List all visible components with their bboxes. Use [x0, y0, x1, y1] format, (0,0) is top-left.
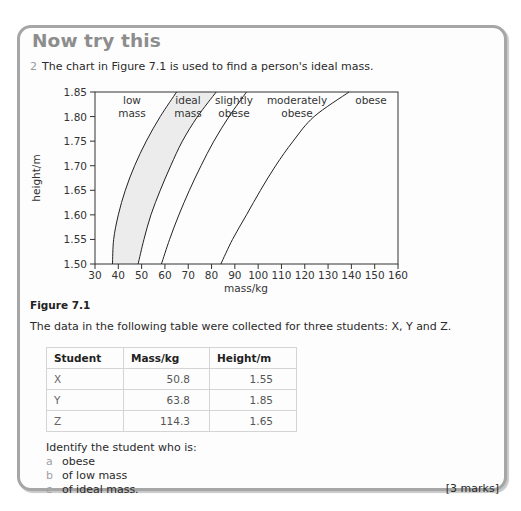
svg-text:ideal: ideal — [175, 94, 200, 106]
svg-text:100: 100 — [248, 269, 268, 281]
col-header-student: Student — [47, 348, 124, 369]
svg-text:1.55: 1.55 — [64, 233, 87, 245]
part-text: of low mass — [62, 469, 127, 482]
part-a: aobese — [46, 455, 197, 469]
svg-text:1.85: 1.85 — [64, 86, 87, 98]
svg-text:90: 90 — [228, 269, 241, 281]
ideal-mass-chart: 30405060708090100110120130140150160 1.50… — [0, 0, 521, 300]
table-row: Y 63.8 1.85 — [47, 390, 297, 411]
col-header-height: Height/m — [210, 348, 297, 369]
y-axis-label: height/m — [30, 154, 42, 201]
svg-text:160: 160 — [388, 269, 408, 281]
part-b: bof low mass — [46, 469, 197, 483]
svg-text:130: 130 — [318, 269, 338, 281]
cell-student: X — [47, 369, 124, 390]
svg-text:50: 50 — [135, 269, 148, 281]
cell-height: 1.55 — [210, 369, 297, 390]
svg-text:obese: obese — [355, 94, 386, 106]
cell-mass: 50.8 — [124, 369, 210, 390]
svg-text:obese: obese — [218, 107, 249, 119]
part-text: obese — [62, 455, 95, 468]
svg-text:110: 110 — [271, 269, 291, 281]
svg-text:40: 40 — [112, 269, 125, 281]
svg-text:30: 30 — [88, 269, 101, 281]
cell-height: 1.85 — [210, 390, 297, 411]
cell-mass: 114.3 — [124, 411, 210, 432]
cell-student: Y — [47, 390, 124, 411]
col-header-mass: Mass/kg — [124, 348, 210, 369]
marks-label: [3 marks] — [446, 482, 499, 495]
intro-text: The data in the following table were col… — [30, 320, 451, 333]
svg-text:60: 60 — [158, 269, 171, 281]
part-letter: c — [46, 483, 62, 497]
svg-text:moderately: moderately — [267, 94, 327, 106]
cell-height: 1.65 — [210, 411, 297, 432]
svg-text:obese: obese — [281, 107, 312, 119]
svg-text:1.65: 1.65 — [64, 184, 87, 196]
svg-text:70: 70 — [182, 269, 195, 281]
y-axis-ticks: 1.501.551.601.651.701.751.801.85 — [64, 86, 95, 270]
table-header-row: Student Mass/kg Height/m — [47, 348, 297, 369]
svg-text:1.60: 1.60 — [64, 209, 87, 221]
table-row: Z 114.3 1.65 — [47, 411, 297, 432]
svg-text:low: low — [123, 94, 141, 106]
table-row: X 50.8 1.55 — [47, 369, 297, 390]
svg-text:1.75: 1.75 — [64, 135, 87, 147]
part-c: cof ideal mass. — [46, 483, 197, 497]
cell-student: Z — [47, 411, 124, 432]
svg-text:mass: mass — [118, 107, 146, 119]
svg-text:1.70: 1.70 — [64, 160, 87, 172]
svg-text:mass: mass — [174, 107, 202, 119]
svg-text:80: 80 — [205, 269, 218, 281]
x-axis-ticks: 30405060708090100110120130140150160 — [88, 264, 408, 281]
cell-mass: 63.8 — [124, 390, 210, 411]
part-text: of ideal mass. — [62, 483, 139, 496]
svg-text:150: 150 — [365, 269, 385, 281]
svg-text:1.50: 1.50 — [64, 258, 87, 270]
x-axis-label: mass/kg — [224, 282, 268, 294]
figure-caption: Figure 7.1 — [30, 299, 90, 311]
question-parts: Identify the student who is: aobese bof … — [46, 441, 197, 497]
svg-text:slightly: slightly — [215, 94, 253, 106]
svg-text:120: 120 — [295, 269, 315, 281]
prompt-text: Identify the student who is: — [46, 441, 197, 455]
region-labels: lowmassidealmassslightlyobesemoderatelyo… — [118, 94, 387, 119]
svg-text:1.80: 1.80 — [64, 111, 87, 123]
svg-text:140: 140 — [341, 269, 361, 281]
student-data-table: Student Mass/kg Height/m X 50.8 1.55 Y 6… — [46, 347, 297, 432]
part-letter: a — [46, 455, 62, 469]
part-letter: b — [46, 469, 62, 483]
